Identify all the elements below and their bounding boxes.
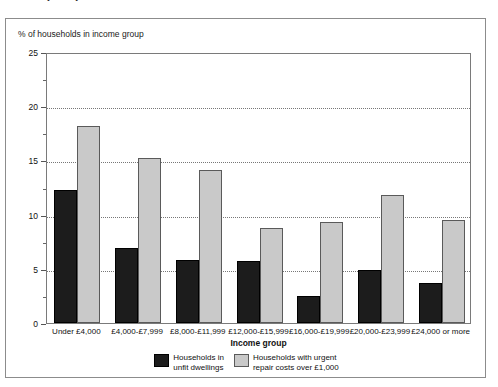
- legend-swatch-unfit-dwellings: [154, 354, 169, 367]
- bar: [54, 190, 77, 323]
- chart-legend: Households in unfit dwellingsHouseholds …: [6, 353, 487, 372]
- x-tick-label: £8,000-£11,999: [170, 327, 225, 336]
- y-tick-label: 15: [12, 156, 38, 166]
- y-tick-label: 0: [12, 319, 38, 329]
- chart-title: Ireland (1991): [4, 0, 80, 1]
- x-axis-caption: Income group: [46, 338, 471, 348]
- y-axis-caption: % of households in income group: [18, 29, 144, 39]
- x-tick-label: £12,000-£15,999: [228, 327, 289, 336]
- y-tick-label: 25: [12, 48, 38, 58]
- bar: [237, 261, 260, 323]
- legend-label: Households in unfit dwellings: [173, 353, 224, 372]
- bar: [419, 283, 442, 323]
- plot-area: [46, 53, 471, 324]
- bar: [320, 222, 343, 323]
- legend-item-urgent-repair-costs: Households with urgent repair costs over…: [234, 353, 339, 372]
- bar: [176, 260, 199, 323]
- legend-label: Households with urgent repair costs over…: [253, 353, 339, 372]
- x-tick-label: Under £4,000: [52, 327, 100, 336]
- y-tick-label: 5: [12, 265, 38, 275]
- bar: [138, 158, 161, 323]
- bar: [77, 126, 100, 323]
- bar: [358, 270, 381, 323]
- bar: [115, 248, 138, 323]
- x-tick-label: £4,000-£7,999: [111, 327, 163, 336]
- legend-swatch-urgent-repair-costs: [234, 354, 249, 367]
- legend-item-unfit-dwellings: Households in unfit dwellings: [154, 353, 224, 372]
- bar: [381, 195, 404, 323]
- gridline: [47, 217, 470, 218]
- bar: [297, 296, 320, 323]
- x-tick-label: £16,000-£19,999: [289, 327, 350, 336]
- figure-frame: % of households in income group 05101520…: [5, 18, 486, 378]
- y-axis-ticks: 0510152025: [6, 53, 46, 324]
- x-tick-label: £20,000-£23,999: [350, 327, 411, 336]
- y-tick-mark: [41, 324, 46, 325]
- gridline: [47, 162, 470, 163]
- bar: [260, 228, 283, 323]
- bar: [442, 220, 465, 323]
- y-tick-label: 10: [12, 211, 38, 221]
- x-tick-label: £24,000 or more: [411, 327, 470, 336]
- bar: [199, 170, 222, 323]
- gridline: [47, 108, 470, 109]
- y-tick-label: 20: [12, 102, 38, 112]
